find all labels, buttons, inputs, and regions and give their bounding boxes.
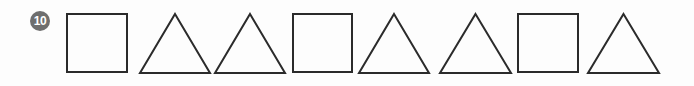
shape-sequence [0, 0, 694, 86]
triangle-outline-icon [139, 10, 211, 77]
triangle-outline-icon [358, 10, 430, 77]
square-outline-icon [292, 10, 353, 76]
shape-slot-5[interactable] [358, 10, 430, 71]
square-outline-icon [66, 10, 128, 76]
shape-slot-1[interactable] [66, 10, 128, 70]
square-outline [518, 14, 578, 72]
shape-slot-3[interactable] [214, 10, 286, 71]
shape-slot-6[interactable] [439, 10, 512, 71]
square-outline [293, 14, 352, 72]
triangle-outline [215, 14, 285, 73]
triangle-outline [440, 14, 511, 73]
shape-slot-4[interactable] [292, 10, 353, 70]
triangle-outline [588, 14, 659, 73]
triangle-outline-icon [214, 10, 286, 77]
square-outline [67, 14, 127, 72]
square-outline-icon [517, 10, 579, 76]
shape-slot-8[interactable] [587, 10, 660, 71]
triangle-outline-icon [439, 10, 512, 77]
triangle-outline-icon [587, 10, 660, 77]
shape-slot-7[interactable] [517, 10, 579, 70]
triangle-outline [140, 14, 210, 73]
triangle-outline [359, 14, 429, 73]
shape-slot-2[interactable] [139, 10, 211, 71]
exercise-row: 10 [0, 0, 694, 86]
